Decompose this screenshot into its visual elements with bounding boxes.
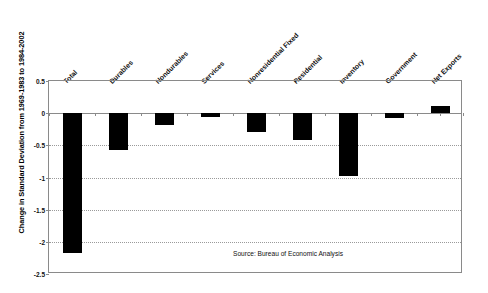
bar: [293, 113, 312, 140]
bar: [201, 113, 220, 117]
chart-figure: Change in Standard Deviation from 1969-1…: [0, 0, 488, 293]
x-axis-tick-mark: [187, 113, 188, 116]
y-axis-tick-label: 0: [41, 110, 45, 117]
y-axis-tick-label: -1.5: [34, 206, 45, 213]
plot-area: 0.50-0.5-1-1.5-2-2.5 Source: Bureau of E…: [48, 80, 462, 273]
bar: [339, 113, 358, 175]
y-axis-tick-mark: [46, 210, 49, 211]
y-axis-tick-mark: [46, 81, 49, 82]
y-axis-tick-label: -2: [39, 238, 45, 245]
x-axis-tick-mark: [49, 113, 50, 116]
bar: [247, 113, 266, 132]
x-axis-tick-mark: [325, 113, 326, 116]
y-axis-tick-label: -2.5: [34, 271, 45, 278]
x-axis-tick-mark: [95, 113, 96, 116]
x-axis-tick-mark: [233, 113, 234, 116]
y-axis-tick-label: 0.5: [36, 78, 45, 85]
x-axis-tick-mark: [417, 113, 418, 116]
x-axis-tick-mark: [371, 113, 372, 116]
y-axis-tick-mark: [46, 145, 49, 146]
bar: [155, 113, 174, 125]
x-axis-tick-mark: [141, 113, 142, 116]
y-axis-tick-mark: [46, 274, 49, 275]
y-axis-tick-mark: [46, 242, 49, 243]
x-axis-category-label: Nonresidential Fixed: [246, 31, 300, 85]
x-axis-category-labels: TotalDurablesNondurablesServicesNonresid…: [0, 0, 488, 80]
x-axis-tick-mark: [463, 113, 464, 116]
bar: [385, 113, 404, 118]
gridline: [49, 242, 461, 243]
bar: [63, 113, 82, 253]
bar: [431, 106, 450, 113]
x-axis-tick-mark: [440, 113, 441, 116]
gridline: [49, 178, 461, 179]
bar: [109, 113, 128, 150]
x-axis-tick-mark: [279, 113, 280, 116]
y-axis-tick-label: -1: [39, 174, 45, 181]
gridline: [49, 210, 461, 211]
y-axis-tick-mark: [46, 178, 49, 179]
y-axis-tick-label: -0.5: [34, 142, 45, 149]
source-annotation: Source: Bureau of Economic Analysis: [233, 250, 343, 257]
